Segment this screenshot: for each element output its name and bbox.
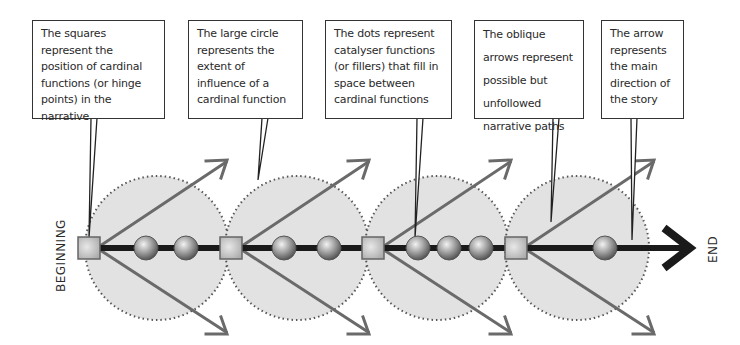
catalyser-dot <box>593 236 617 260</box>
cardinal-square <box>505 237 527 259</box>
catalyser-dot <box>437 236 461 260</box>
catalyser-dot <box>134 236 158 260</box>
callout-dots: The dots represent catalyser functions (… <box>325 20 452 119</box>
catalyser-dot <box>272 236 296 260</box>
cardinal-square <box>220 237 242 259</box>
callout-main-arrow: The arrow represents the main direction … <box>601 20 684 119</box>
catalyser-dot <box>469 236 493 260</box>
callout-oblique-arrows: The oblique arrows represent possible bu… <box>474 20 584 119</box>
catalyser-dot <box>317 236 341 260</box>
catalyser-dot <box>406 236 430 260</box>
callout-pointer <box>258 118 268 180</box>
callout-circle: The large circle represents the extent o… <box>188 20 303 119</box>
callout-squares: The squares represent the position of ca… <box>32 20 165 119</box>
cardinal-square <box>78 237 100 259</box>
beginning-label: BEGINNING <box>54 219 68 292</box>
catalyser-dot <box>174 236 198 260</box>
cardinal-square <box>362 237 384 259</box>
end-label: END <box>706 236 720 263</box>
